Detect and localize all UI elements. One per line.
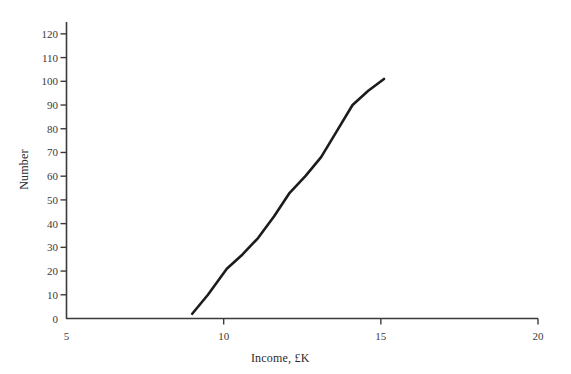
line-chart: 0102030405060708090100110120 5101520 Num… bbox=[0, 0, 571, 374]
x-axis-tick-label: 10 bbox=[218, 331, 229, 342]
y-axis-tick-label: 20 bbox=[18, 266, 58, 277]
x-axis-tick-label: 20 bbox=[533, 331, 544, 342]
x-axis-ticks bbox=[224, 319, 538, 325]
y-axis-tick-label: 110 bbox=[18, 52, 58, 63]
x-axis-tick-label: 5 bbox=[64, 331, 70, 342]
y-axis-tick-label: 30 bbox=[18, 242, 58, 253]
y-axis-tick-label: 100 bbox=[18, 76, 58, 87]
x-axis-tick-label: 15 bbox=[375, 331, 386, 342]
y-axis-tick-label: 120 bbox=[18, 28, 58, 39]
y-axis-tick-label: 10 bbox=[18, 289, 58, 300]
chart-plot-area bbox=[0, 0, 571, 374]
data-series-group bbox=[192, 79, 384, 314]
x-axis-title: Income, £K bbox=[251, 351, 310, 366]
y-axis-title: Number bbox=[17, 130, 32, 210]
y-axis-tick-label: 0 bbox=[18, 313, 58, 324]
y-axis-tick-label: 90 bbox=[18, 100, 58, 111]
y-axis-ticks bbox=[61, 34, 67, 295]
series-line bbox=[192, 79, 384, 314]
y-axis-tick-label: 40 bbox=[18, 218, 58, 229]
